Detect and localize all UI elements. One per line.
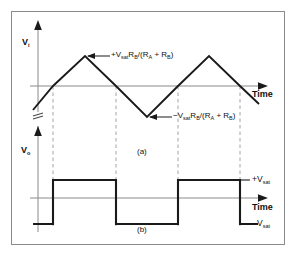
- time-axis-label-bottom: Time: [252, 203, 273, 212]
- axis-label-vi: Vi: [22, 38, 30, 47]
- annotation-peak-p5: ): [171, 50, 174, 59]
- bottom-time-axis-arrowhead: [258, 194, 268, 202]
- alignment-dashed-lines: [53, 86, 240, 227]
- annotation-peak-p4: + R: [152, 50, 167, 59]
- annotation-peak-p1: +V: [111, 50, 121, 59]
- peak-annotation-arrow: [87, 53, 110, 59]
- level-label-neg-sat: −Vsat: [252, 219, 270, 228]
- annotation-valley-sub-b1: B: [196, 115, 200, 121]
- annotation-peak-sub-a: A: [148, 54, 152, 60]
- annotation-valley-p4: + R: [214, 111, 229, 120]
- top-axes: [30, 20, 268, 112]
- panel-caption-a: (a): [137, 148, 147, 156]
- annotation-peak-threshold: +VsatRB/(RA + RB): [111, 51, 173, 59]
- bottom-voltage-axis-arrowhead: [34, 126, 42, 136]
- annotation-valley-threshold: −VsatRB/(RA + RB): [173, 112, 235, 120]
- annotation-valley-p3: /(R: [200, 111, 211, 120]
- annotation-valley-sub-sat: sat: [183, 115, 190, 121]
- panel-caption-b: (b): [137, 226, 147, 234]
- level-label-pos-sat-main: +V: [252, 174, 263, 184]
- annotation-peak-sub-b2: B: [167, 54, 171, 60]
- annotation-peak-sub-b1: B: [134, 54, 138, 60]
- annotation-peak-sub-sat: sat: [121, 54, 128, 60]
- axis-break-symbol: [33, 113, 43, 119]
- top-voltage-axis-arrowhead: [34, 20, 42, 30]
- annotation-valley-p1: −V: [173, 111, 183, 120]
- annotation-peak-p3: /(R: [138, 50, 149, 59]
- annotation-valley-sub-a: A: [210, 115, 214, 121]
- axis-label-vo-subscript: o: [27, 150, 30, 156]
- axis-label-vo: Vo: [21, 146, 30, 155]
- figure-root: Vi Vo +VsatRB/(RA + RB) −VsatRB/(RA + RB…: [0, 0, 297, 257]
- level-label-neg-sat-main: −V: [252, 218, 263, 228]
- annotation-valley-sub-b2: B: [229, 115, 233, 121]
- axis-label-vi-subscript: i: [28, 42, 30, 48]
- square-waveform: [33, 180, 258, 224]
- time-axis-label-top: Time: [252, 90, 273, 99]
- level-label-pos-sat-subscript: sat: [263, 179, 270, 185]
- valley-annotation-arrow: [149, 114, 172, 120]
- level-label-neg-sat-subscript: sat: [263, 223, 270, 229]
- annotation-valley-p5: ): [233, 111, 236, 120]
- level-label-pos-sat: +Vsat: [252, 175, 270, 184]
